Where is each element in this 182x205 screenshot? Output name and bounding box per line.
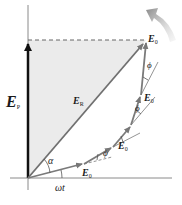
phasor-diagram: EP ER E0 E0 E0 E0 ϕ ϕ ϕ α ωt: [0, 0, 182, 205]
phasor-label-5: E0: [147, 33, 158, 45]
alpha-label: α: [48, 155, 54, 166]
phi-label-3: ϕ: [135, 103, 140, 113]
ep-label: EP: [5, 93, 21, 110]
phi-label-2: ϕ: [103, 148, 108, 158]
phasor-label-4: E0: [143, 92, 154, 104]
phi-arc-4: [143, 77, 148, 80]
phi-arc-1: [97, 154, 98, 160]
phasor-label-3: E0: [117, 140, 128, 152]
phi-label-4: ϕ: [147, 60, 152, 70]
phasor-label-1: E0: [81, 167, 92, 179]
omega-t-label: ωt: [55, 182, 65, 193]
omega-t-arc: [61, 170, 62, 178]
